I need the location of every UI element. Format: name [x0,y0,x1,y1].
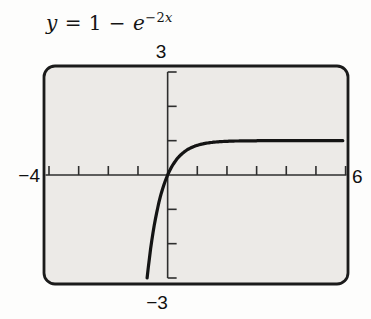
ymax-label: 3 [156,41,167,62]
calculator-graph: 3 −4 6 −3 [0,0,371,319]
ymin-label: −3 [146,292,168,313]
xmax-label: 6 [352,166,363,187]
figure: y = 1 − e−2x 3 −4 6 −3 [0,0,371,319]
xmin-label: −4 [18,165,40,186]
